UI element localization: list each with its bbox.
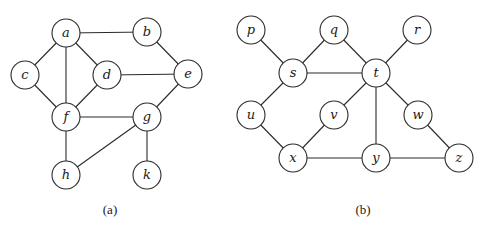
node-label: y: [371, 150, 380, 165]
node-label: h: [62, 167, 70, 182]
node-label: v: [330, 107, 338, 122]
graph-a-caption: (a): [103, 202, 117, 217]
node-e: e: [174, 60, 202, 88]
graph-a-nodes: abcdefghk: [11, 18, 202, 189]
node-label: d: [103, 67, 111, 82]
graph-a: abcdefghk (a): [11, 18, 202, 217]
node-label: r: [414, 22, 421, 37]
node-v: v: [320, 101, 348, 129]
node-label: g: [143, 109, 151, 124]
graph-a-edges: [25, 32, 188, 175]
node-h: h: [52, 161, 80, 189]
node-u: u: [237, 101, 265, 129]
node-label: c: [21, 67, 29, 82]
node-y: y: [362, 144, 390, 172]
node-z: z: [445, 144, 473, 172]
node-label: z: [455, 150, 463, 165]
node-a: a: [52, 19, 80, 47]
graph-b-caption: (b): [355, 202, 370, 217]
node-t: t: [362, 59, 390, 87]
node-label: w: [412, 107, 423, 122]
node-x: x: [279, 144, 307, 172]
node-b: b: [133, 18, 161, 46]
node-f: f: [52, 103, 80, 131]
node-label: q: [330, 22, 338, 37]
node-label: u: [247, 107, 255, 122]
node-p: p: [237, 16, 265, 44]
node-r: r: [403, 16, 431, 44]
node-s: s: [279, 59, 307, 87]
node-label: k: [143, 167, 151, 182]
node-label: p: [247, 22, 256, 37]
node-g: g: [133, 103, 161, 131]
node-w: w: [404, 101, 432, 129]
node-label: b: [143, 24, 151, 39]
node-q: q: [320, 16, 348, 44]
graph-b-edges: [251, 30, 459, 158]
graph-b: pqrstuvwxyz (b): [237, 16, 473, 217]
node-label: a: [62, 25, 70, 40]
node-k: k: [133, 161, 161, 189]
node-label: s: [290, 65, 297, 80]
edge-g-h: [66, 117, 147, 175]
node-c: c: [11, 61, 39, 89]
node-label: t: [373, 65, 379, 80]
node-label: x: [289, 150, 297, 165]
graph-diagram-canvas: abcdefghk (a) pqrstuvwxyz (b): [0, 0, 485, 225]
node-d: d: [93, 61, 121, 89]
node-label: e: [184, 66, 192, 81]
